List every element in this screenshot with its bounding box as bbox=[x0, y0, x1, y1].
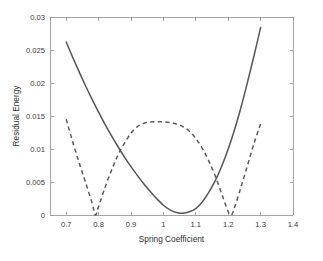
y-tick-label: 0.03 bbox=[30, 13, 45, 22]
x-tick-label: 1.3 bbox=[255, 220, 266, 229]
x-tick-label: 0.8 bbox=[93, 220, 104, 229]
y-tick-label: 0 bbox=[41, 211, 45, 220]
x-tick-label: 1.2 bbox=[223, 220, 234, 229]
x-tick-label: 0.9 bbox=[126, 220, 137, 229]
y-tick-label: 0.025 bbox=[26, 46, 45, 55]
x-tick-label: 1.4 bbox=[288, 220, 299, 229]
y-tick-label: 0.01 bbox=[30, 145, 45, 154]
x-tick-label: 0.7 bbox=[61, 220, 72, 229]
x-tick-label: 1.1 bbox=[191, 220, 202, 229]
x-tick-label: 1 bbox=[161, 220, 165, 229]
x-axis-title: Spring Coefficient bbox=[139, 234, 205, 244]
y-axis-title: Residual Energy bbox=[11, 85, 21, 147]
y-tick-label: 0.005 bbox=[26, 178, 45, 187]
figure-canvas: 0.70.80.911.11.21.31.4 00.0050.010.0150.… bbox=[0, 0, 323, 261]
y-tick-label: 0.02 bbox=[30, 79, 45, 88]
y-tick-label: 0.015 bbox=[26, 112, 45, 121]
residual-energy-chart: 0.70.80.911.11.21.31.4 00.0050.010.0150.… bbox=[0, 0, 323, 261]
